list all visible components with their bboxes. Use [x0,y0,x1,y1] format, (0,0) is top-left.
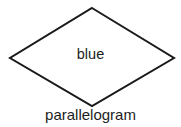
shape-inner-label: blue [0,47,181,62]
shape-diagram: blue parallelogram [0,0,181,127]
shape-name-label: parallelogram [0,107,181,122]
